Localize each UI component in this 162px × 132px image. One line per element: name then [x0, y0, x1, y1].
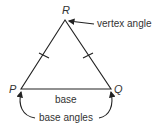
triangle [21, 20, 111, 89]
vertex-label-r: R [62, 4, 70, 16]
vertex-angle-arrow [69, 21, 94, 24]
base-label: base [55, 94, 77, 105]
isosceles-triangle-diagram: R P Q vertex angle base base angles [0, 0, 162, 132]
base-angle-arrow-left [20, 92, 35, 118]
base-angle-arrow-right [99, 92, 112, 118]
vertex-angle-label: vertex angle [97, 18, 152, 29]
vertex-label-q: Q [114, 83, 123, 95]
vertex-label-p: P [9, 83, 17, 95]
base-angles-label: base angles [39, 112, 93, 123]
